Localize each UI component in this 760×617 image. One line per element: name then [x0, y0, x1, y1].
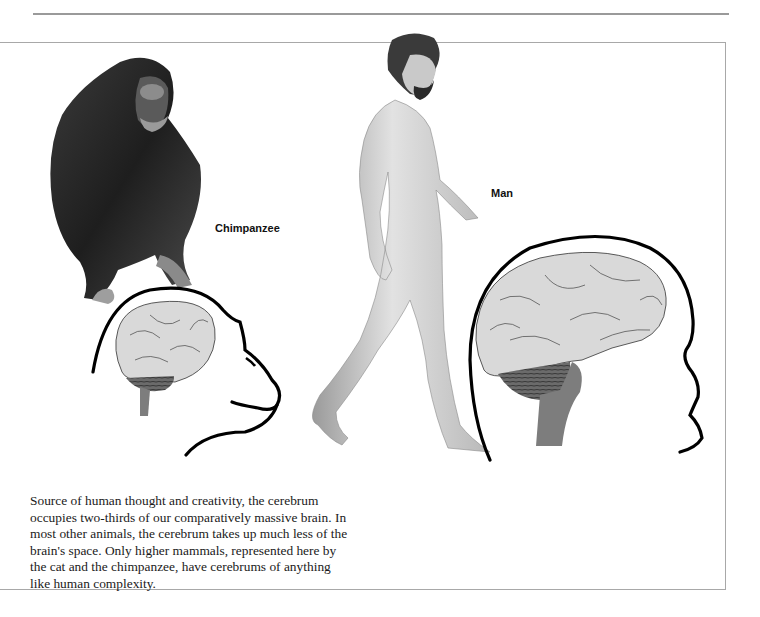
chimpanzee-label: Chimpanzee: [215, 222, 280, 234]
chimpanzee-head-outline: [93, 288, 280, 455]
chimpanzee-illustration: [50, 58, 201, 304]
man-illustration: [312, 33, 490, 452]
man-head-outline: [470, 237, 702, 461]
caption-line: the cat and the chimpanzee, have cerebru…: [30, 559, 370, 576]
man-label: Man: [491, 187, 513, 199]
caption-line: brain's space. Only higher mammals, repr…: [30, 543, 370, 560]
caption-line: occupies two-thirds of our comparatively…: [30, 510, 370, 527]
caption-line: like human complexity.: [30, 576, 370, 593]
figure-caption: Source of human thought and creativity, …: [30, 493, 370, 593]
caption-line: Source of human thought and creativity, …: [30, 493, 370, 510]
caption-line: most other animals, the cerebrum takes u…: [30, 526, 370, 543]
